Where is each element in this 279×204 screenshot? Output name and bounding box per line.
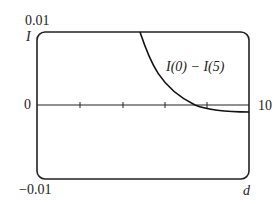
x-axis-label: d bbox=[243, 184, 250, 198]
y-max-label: 0.01 bbox=[25, 14, 50, 28]
y-zero-label: 0 bbox=[24, 98, 31, 112]
curve-label: I(0) − I(5) bbox=[166, 60, 224, 74]
plot-area bbox=[0, 0, 279, 204]
y-axis-label: I bbox=[26, 30, 31, 44]
y-min-label: −0.01 bbox=[19, 183, 51, 197]
x-max-label: 10 bbox=[258, 99, 272, 113]
